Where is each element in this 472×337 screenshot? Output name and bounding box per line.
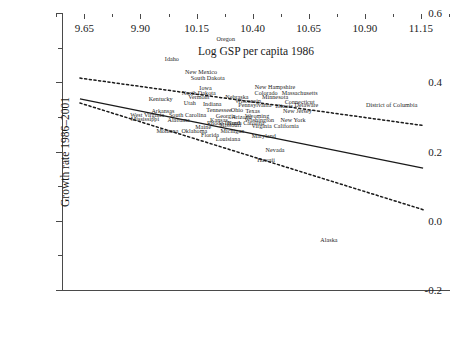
data-point-label: Utah [184, 100, 196, 106]
data-point-label: Maryland [252, 133, 276, 139]
x-axis-line [62, 290, 450, 291]
data-point-label: Kentucky [149, 96, 173, 102]
data-point-label: California [274, 123, 299, 129]
data-point-label: Alabama [167, 117, 189, 123]
data-point-label: Oregon [216, 36, 235, 42]
data-point-label: New Jersey [283, 108, 312, 114]
data-point-label: South Dakota [191, 75, 225, 81]
scatter-plot-figure: 0.60.40.20.0-0.2 9.659.9010.1510.4010.65… [0, 0, 472, 337]
data-point-label: Virginia [251, 123, 271, 129]
y-axis-title: Growth rate 1986–2001 [59, 97, 71, 207]
data-point-label: Idaho [165, 56, 179, 62]
data-point-label: Hawaii [257, 157, 275, 163]
data-point-label: Vermont [188, 94, 209, 100]
data-point-label: Mississippi [131, 116, 159, 122]
data-point-label: Michigan [221, 128, 245, 134]
data-point-label: Alaska [320, 237, 337, 243]
data-point-label: Nevada [266, 147, 285, 153]
data-point-label: Montana [156, 128, 178, 134]
data-point-label: District of Columbia [366, 102, 417, 108]
y-tick-major [56, 290, 62, 291]
data-point-label: Louisiana [216, 136, 240, 142]
x-tick-minor [56, 14, 57, 17]
x-axis-title: Log GSP per capita 1986 [198, 45, 314, 57]
data-point-label: Missouri [219, 122, 241, 128]
plot-area: 0.60.40.20.0-0.2 9.659.9010.1510.4010.65… [62, 13, 450, 290]
data-point-label: New Mexico [185, 69, 217, 75]
